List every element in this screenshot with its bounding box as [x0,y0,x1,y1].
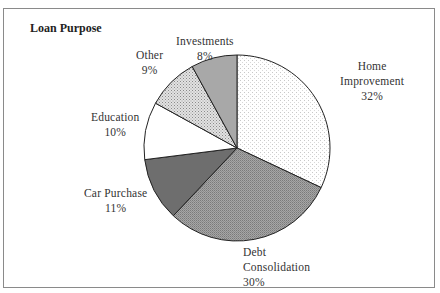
label-name: Car Purchase [84,186,147,201]
label-other: Other 9% [136,48,163,78]
label-name: Debt [243,245,310,260]
label-name: Improvement [340,74,404,89]
label-education: Education 10% [91,110,139,140]
label-value: 11% [84,201,147,216]
label-value: 30% [243,275,310,290]
label-value: 32% [340,89,404,104]
label-value: 8% [176,49,234,64]
label-name: Consolidation [243,260,310,275]
label-home-improvement: Home Improvement 32% [340,59,404,104]
label-name: Investments [176,34,234,49]
label-investments: Investments 8% [176,34,234,64]
label-debt-consolidation: Debt Consolidation 30% [243,245,310,290]
label-car-purchase: Car Purchase 11% [84,186,147,216]
label-value: 10% [91,125,139,140]
label-value: 9% [136,63,163,78]
label-name: Home [340,59,404,74]
label-name: Other [136,48,163,63]
label-name: Education [91,110,139,125]
